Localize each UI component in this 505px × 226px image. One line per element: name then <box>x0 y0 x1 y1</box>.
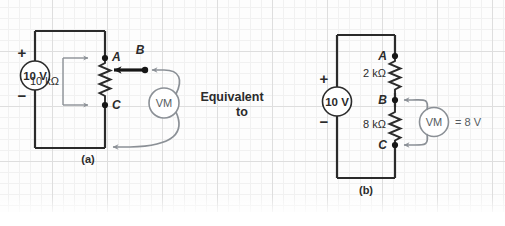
node-label-b-B: B <box>378 93 387 107</box>
resistor-a-zigzag <box>100 58 111 105</box>
node-a-dot-A <box>102 55 108 61</box>
equivalent-line-1: Equivalent <box>200 90 264 104</box>
voltmeter-b-lead-top <box>404 100 427 110</box>
circuit-a-wires <box>35 31 105 148</box>
circuit-a: 10 V + − A C 10 kΩ <box>18 31 180 165</box>
equivalent-line-2: to <box>236 105 248 119</box>
node-a-dot-C <box>102 102 108 108</box>
figure-canvas: 10 V + − A C 10 kΩ <box>0 0 505 226</box>
voltmeter-b-label: VM <box>426 116 443 128</box>
source-a-minus: − <box>18 87 27 104</box>
caption-b: (b) <box>359 184 373 196</box>
node-a-dot-B <box>142 67 148 73</box>
node-b-dot-B <box>392 97 398 103</box>
node-label-b-A: A <box>377 49 387 63</box>
voltage-source-b: 10 V + − <box>320 70 352 130</box>
node-label-a-C: C <box>112 98 121 112</box>
node-label-a-B: B <box>136 43 145 57</box>
circuit-diagram: 10 V + − A C 10 kΩ <box>0 0 505 226</box>
node-b-dot-A <box>392 53 398 59</box>
caption-a: (a) <box>81 153 95 165</box>
node-label-a-A: A <box>111 50 121 64</box>
voltmeter-b-lead-bottom <box>404 134 427 145</box>
resistor-b-r1-value: 2 kΩ <box>363 67 386 79</box>
resistance-a-leader <box>63 58 88 105</box>
voltage-source-a: 10 V + − <box>18 44 50 104</box>
resistor-b-r2-zigzag <box>390 107 401 145</box>
voltmeter-a: VM <box>113 70 180 147</box>
source-b-plus: + <box>320 70 329 87</box>
node-b-dot-C <box>392 142 398 148</box>
source-b-minus: − <box>320 113 329 130</box>
resistor-a-value: 10 kΩ <box>30 75 59 87</box>
voltmeter-b: VM <box>404 100 449 145</box>
circuit-b: 10 V + − 2 kΩ 8 kΩ A B C <box>320 35 482 196</box>
wiper-arm-a <box>114 67 148 73</box>
equivalence-note: Equivalent to <box>200 90 264 119</box>
node-label-b-C: C <box>378 138 387 152</box>
voltmeter-a-label: VM <box>156 97 173 109</box>
potentiometer-a <box>100 58 111 105</box>
voltmeter-b-reading: = 8 V <box>455 116 482 128</box>
resistor-b-r2-value: 8 kΩ <box>363 118 386 130</box>
source-a-plus: + <box>18 44 27 61</box>
resistor-b-r1-zigzag <box>390 56 401 93</box>
source-b-value: 10 V <box>325 96 349 108</box>
